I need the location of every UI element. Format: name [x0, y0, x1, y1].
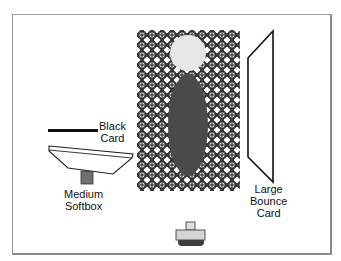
large-bounce-card	[248, 31, 273, 182]
camera-viewfinder	[186, 222, 195, 230]
softbox-stand	[81, 171, 93, 184]
label-line: Black	[99, 121, 126, 132]
label-line: Large	[250, 184, 287, 195]
black-card	[48, 129, 98, 132]
label-large-bounce-card: Large Bounce Card	[250, 184, 287, 219]
label-line: Bounce	[250, 196, 287, 207]
label-black-card: Black Card	[99, 121, 126, 144]
label-line: Medium	[64, 189, 103, 200]
lighting-diagram	[0, 0, 341, 261]
label-line: Card	[99, 133, 126, 144]
label-medium-softbox: Medium Softbox	[64, 189, 103, 212]
label-line: Softbox	[64, 201, 103, 212]
subject-head	[170, 35, 206, 71]
label-line: Card	[250, 208, 287, 219]
medium-softbox	[49, 146, 133, 174]
camera-body	[176, 230, 205, 240]
subject-body	[168, 74, 208, 176]
